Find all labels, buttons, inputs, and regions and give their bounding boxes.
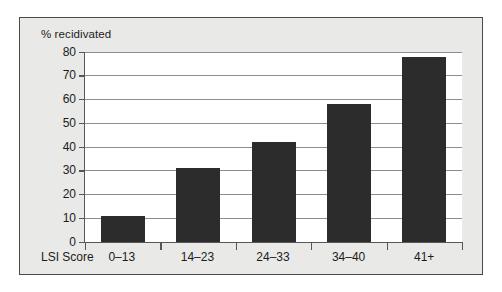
bar-slot xyxy=(236,52,311,242)
x-axis-tick-mark xyxy=(160,242,161,250)
x-axis-tick-labels: 0–1314–2324–3334–4041+ xyxy=(84,250,462,264)
y-axis-tick-label: 10 xyxy=(63,211,76,225)
x-axis-category-label: 41+ xyxy=(386,250,462,264)
x-axis-tick-mark xyxy=(236,242,237,250)
plot-area: 01020304050607080 xyxy=(84,52,462,242)
bar-series xyxy=(85,52,462,242)
y-axis-tick-label: 30 xyxy=(63,163,76,177)
y-axis-tick-label: 50 xyxy=(63,116,76,130)
bar xyxy=(101,216,145,242)
bar-slot xyxy=(387,52,462,242)
x-axis-tick-mark xyxy=(387,242,388,250)
x-axis-tick-mark xyxy=(311,242,312,250)
bar-slot xyxy=(311,52,386,242)
bar-slot xyxy=(85,52,160,242)
x-axis-tick-mark xyxy=(462,242,463,250)
bar xyxy=(176,168,220,242)
bar-slot xyxy=(160,52,235,242)
x-axis-category-label: 0–13 xyxy=(84,250,160,264)
y-axis-title: % recidivated xyxy=(41,28,111,40)
bar xyxy=(402,57,446,242)
y-axis-tick-label: 60 xyxy=(63,92,76,106)
y-axis-tick-label: 0 xyxy=(69,235,76,249)
x-axis-category-label: 14–23 xyxy=(160,250,236,264)
y-axis-tick-label: 20 xyxy=(63,187,76,201)
x-axis-category-label: 24–33 xyxy=(235,250,311,264)
bar xyxy=(252,142,296,242)
x-axis-tick-mark xyxy=(85,242,86,250)
x-axis-category-label: 34–40 xyxy=(311,250,387,264)
bar xyxy=(327,104,371,242)
y-axis-tick-label: 40 xyxy=(63,140,76,154)
chart-figure: % recidivated 01020304050607080 LSI Scor… xyxy=(19,17,483,275)
y-axis-tick-label: 70 xyxy=(63,68,76,82)
y-axis-tick-label: 80 xyxy=(63,45,76,59)
